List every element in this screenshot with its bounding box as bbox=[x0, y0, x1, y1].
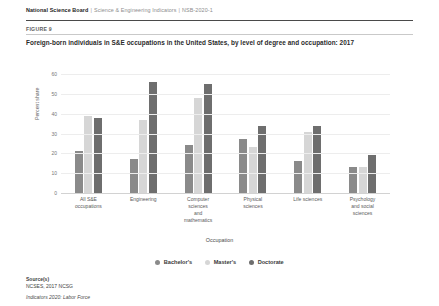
bar bbox=[239, 139, 247, 193]
bar bbox=[294, 161, 302, 193]
x-axis-category-label: Life sciences bbox=[280, 196, 335, 224]
bar bbox=[313, 126, 321, 193]
legend-swatch-icon bbox=[205, 260, 210, 265]
bar bbox=[349, 167, 357, 193]
x-axis-category-label: Physicalsciences bbox=[225, 196, 280, 224]
x-axis-category-label: Computersciencesandmathematics bbox=[171, 196, 226, 224]
bar bbox=[359, 167, 367, 193]
gridline-40: 40 bbox=[61, 114, 390, 115]
bar bbox=[149, 82, 157, 193]
figure-page: National Science Board|Science & Enginee… bbox=[0, 0, 439, 306]
y-tick-label-40: 40 bbox=[51, 111, 57, 117]
x-axis-category-label: Psychologyand socialsciences bbox=[335, 196, 390, 224]
source-line-2: Indicators 2020: Labor Force bbox=[26, 294, 90, 301]
legend-swatch-icon bbox=[249, 260, 254, 265]
legend-swatch-icon bbox=[155, 260, 160, 265]
gridline-20: 20 bbox=[61, 153, 390, 154]
bar bbox=[194, 98, 202, 193]
gridline-30: 30 bbox=[61, 134, 390, 135]
gridline-60: 60 bbox=[61, 74, 390, 75]
y-tick-label-0: 0 bbox=[54, 190, 57, 196]
y-tick-label-20: 20 bbox=[51, 150, 57, 156]
source-block: Source(s) NCSES, 2017 NCSG Indicators 20… bbox=[26, 276, 90, 302]
bar bbox=[204, 84, 212, 193]
gridline-10: 10 bbox=[61, 173, 390, 174]
y-axis-label: Percent share bbox=[34, 88, 40, 120]
x-axis-category-label: Engineering bbox=[116, 196, 171, 224]
bar bbox=[94, 118, 102, 193]
bar bbox=[368, 155, 376, 193]
x-axis-title: Occupation bbox=[0, 237, 439, 243]
source-line-1: NCSES, 2017 NCSG bbox=[26, 283, 90, 290]
y-tick-label-50: 50 bbox=[51, 91, 57, 97]
bar bbox=[258, 126, 266, 193]
x-axis-labels: All S&EoccupationsEngineeringComputersci… bbox=[61, 196, 390, 224]
y-tick-label-30: 30 bbox=[51, 131, 57, 137]
bar bbox=[139, 120, 147, 193]
legend-item[interactable]: Bachelor's bbox=[155, 259, 192, 265]
legend-item[interactable]: Doctorate bbox=[249, 259, 284, 265]
plot-canvas: 0102030405060 bbox=[61, 74, 390, 193]
legend-item[interactable]: Master's bbox=[205, 259, 236, 265]
y-tick-label-10: 10 bbox=[51, 170, 57, 176]
chart-legend: Bachelor'sMaster'sDoctorate bbox=[0, 259, 439, 265]
gridline-50: 50 bbox=[61, 94, 390, 95]
x-axis-category-label: All S&Eoccupations bbox=[61, 196, 116, 224]
y-tick-label-60: 60 bbox=[51, 71, 57, 77]
legend-label: Master's bbox=[214, 259, 236, 265]
bar bbox=[84, 116, 92, 193]
bar bbox=[130, 159, 138, 193]
legend-label: Bachelor's bbox=[164, 259, 192, 265]
source-label: Source(s) bbox=[26, 276, 90, 283]
legend-label: Doctorate bbox=[258, 259, 284, 265]
gridline-0: 0 bbox=[61, 193, 390, 194]
bar bbox=[304, 132, 312, 193]
